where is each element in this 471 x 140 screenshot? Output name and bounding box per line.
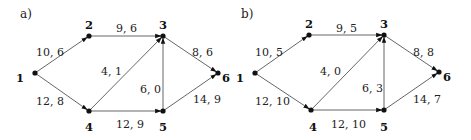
edge-label-4-5: 12, 9	[116, 118, 144, 131]
edge-label-5-3: 6, 3	[362, 82, 383, 95]
edge-label-1-4: 12, 10	[255, 95, 290, 108]
node-label-3: 3	[159, 18, 167, 32]
node-label-4: 4	[85, 120, 93, 134]
node-4	[86, 108, 91, 113]
edge-4-3	[89, 38, 161, 111]
node-label-1: 1	[236, 71, 244, 85]
edge-label-3-6: 8, 6	[192, 46, 213, 59]
edge-label-5-6: 14, 9	[193, 93, 221, 106]
node-label-2: 2	[305, 17, 313, 31]
node-label-2: 2	[85, 18, 93, 32]
node-label-6: 6	[443, 70, 451, 84]
node-5	[381, 107, 386, 112]
node-label-5: 5	[159, 120, 167, 134]
edge-label-4-3: 4, 0	[320, 65, 341, 78]
edge-label-1-4: 12, 8	[36, 95, 64, 108]
edge-label-1-2: 10, 6	[36, 46, 64, 59]
node-label-1: 1	[16, 71, 24, 85]
node-6	[215, 70, 220, 75]
edge-label-5-3: 6, 0	[140, 83, 161, 96]
edge-label-2-3: 9, 6	[116, 22, 137, 35]
edge-label-5-6: 14, 7	[413, 93, 441, 106]
panel-label: a)	[20, 7, 32, 21]
edge-label-4-3: 4, 1	[101, 65, 122, 78]
node-4	[308, 107, 313, 112]
node-2	[86, 33, 91, 38]
panel-label: b)	[241, 7, 253, 21]
graph-a: a)10, 612, 89, 64, 112, 96, 08, 614, 912…	[16, 7, 230, 134]
node-1	[32, 70, 37, 75]
node-3	[381, 32, 386, 37]
node-1	[252, 70, 257, 75]
node-2	[306, 32, 311, 37]
node-3	[160, 33, 165, 38]
graph-b: b)10, 512, 109, 54, 012, 106, 38, 814, 7…	[236, 7, 451, 134]
edge-label-4-5: 12, 10	[331, 118, 366, 131]
node-6	[436, 69, 441, 74]
edge-label-2-3: 9, 5	[336, 22, 357, 35]
flow-network-diagram: a)10, 612, 89, 64, 112, 96, 08, 614, 912…	[0, 0, 471, 140]
node-label-4: 4	[309, 120, 317, 134]
node-5	[160, 108, 165, 113]
node-label-6: 6	[222, 71, 230, 85]
node-label-3: 3	[380, 17, 388, 31]
node-label-5: 5	[380, 120, 388, 134]
edge-label-3-6: 8, 8	[413, 46, 434, 59]
edge-label-1-2: 10, 5	[255, 46, 283, 59]
